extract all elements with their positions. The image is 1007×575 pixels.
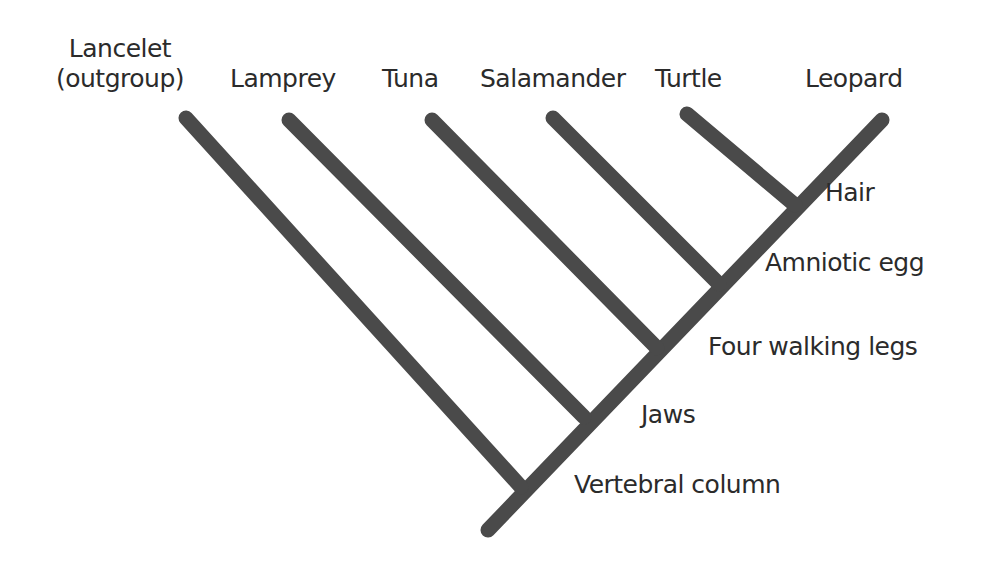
taxon-lamprey: Lamprey	[230, 64, 336, 94]
taxon-lancelet-line2: (outgroup)	[40, 64, 200, 94]
trunk-line	[488, 120, 882, 530]
branch-turtle	[687, 114, 795, 205]
character-four-walking-legs: Four walking legs	[708, 332, 917, 362]
taxon-lancelet: Lancelet (outgroup)	[40, 34, 200, 94]
character-hair: Hair	[825, 178, 874, 208]
taxon-leopard: Leopard	[805, 64, 903, 94]
branch-tuna	[432, 120, 657, 348]
taxon-turtle: Turtle	[655, 64, 722, 94]
taxon-tuna: Tuna	[382, 64, 438, 94]
character-jaws: Jaws	[641, 400, 695, 430]
taxon-salamander: Salamander	[480, 64, 626, 94]
branch-lamprey	[289, 120, 584, 417]
character-amniotic-egg: Amniotic egg	[765, 248, 924, 278]
character-vertebral-column: Vertebral column	[574, 470, 780, 500]
taxon-lancelet-line1: Lancelet	[40, 34, 200, 64]
